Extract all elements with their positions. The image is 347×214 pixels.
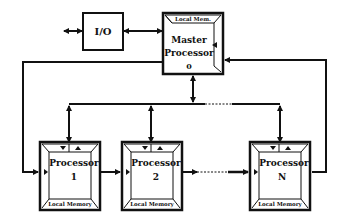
- pn-label: Processor: [259, 158, 309, 168]
- master-label-2: Processor: [164, 48, 214, 58]
- p1-memory-label: Local Memory: [48, 201, 92, 208]
- pn-number: N: [278, 172, 286, 182]
- master-label-1: Master: [171, 35, 207, 45]
- master-label-3: 0: [186, 61, 192, 71]
- pn-memory-label: Local Memory: [258, 201, 302, 208]
- master-memory-label: Local Mem.: [175, 16, 211, 22]
- p1-number: 1: [71, 172, 77, 182]
- p2-memory-label: Local Memory: [130, 201, 174, 208]
- io-label: I/O: [94, 26, 111, 37]
- p1-label: Processor: [49, 158, 99, 168]
- multiprocessor-diagram: I/O Local Mem. Master Processor 0 Proces…: [0, 0, 347, 214]
- p2-number: 2: [153, 172, 159, 182]
- p2-label: Processor: [131, 158, 181, 168]
